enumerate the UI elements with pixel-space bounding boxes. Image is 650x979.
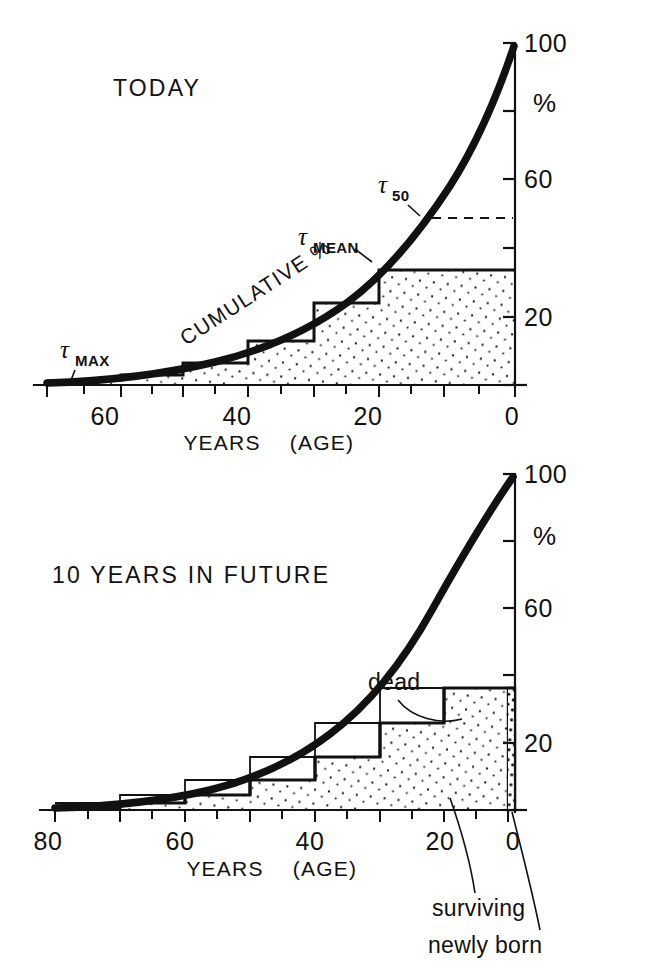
today-xtick-0: 0	[505, 402, 519, 430]
population-survival-figure: 100 60 20 % 60 40 20 0 YEARS (AGE)	[0, 0, 650, 979]
today-xtick-60: 60	[91, 402, 120, 430]
today-ytick-20: 20	[524, 303, 553, 331]
tau-50-subscript: 50	[392, 187, 410, 204]
today-x-axis-title-age: (AGE)	[290, 431, 354, 454]
tau-50-symbol: τ	[378, 171, 388, 198]
future-xtick-40: 40	[296, 827, 325, 855]
today-ytick-60: 60	[524, 165, 553, 193]
future-xtick-60: 60	[166, 827, 195, 855]
today-y-axis-label: %	[533, 88, 556, 118]
today-xtick-40: 40	[223, 402, 252, 430]
today-ytick-100: 100	[524, 29, 567, 57]
tau-max-symbol: τ	[60, 336, 70, 363]
future-xtick-20: 20	[426, 827, 455, 855]
figure-background	[0, 0, 650, 979]
future-xtick-0: 0	[506, 827, 520, 855]
future-xtick-80: 80	[34, 827, 63, 855]
tau-max-subscript: MAX	[75, 352, 110, 369]
future-ytick-100: 100	[524, 460, 567, 488]
future-panel-title: 10 YEARS IN FUTURE	[52, 562, 330, 588]
today-panel-title: TODAY	[113, 75, 201, 101]
today-x-axis-title-years: YEARS	[183, 431, 260, 454]
newly-born-label: newly born	[428, 932, 542, 958]
dead-label: dead	[368, 669, 420, 695]
figure-container: 100 60 20 % 60 40 20 0 YEARS (AGE)	[0, 0, 650, 979]
future-x-axis-title-years: YEARS	[186, 857, 263, 880]
future-ytick-20: 20	[524, 729, 553, 757]
today-xtick-20: 20	[354, 402, 383, 430]
future-x-axis-title-age: (AGE)	[293, 857, 357, 880]
future-ytick-60: 60	[524, 594, 553, 622]
surviving-label: surviving	[432, 895, 525, 921]
future-y-axis-label: %	[533, 521, 556, 551]
